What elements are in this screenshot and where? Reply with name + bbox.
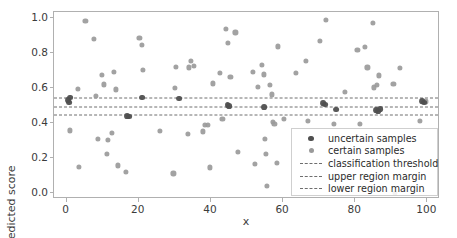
y-tick-label: 0.4 — [22, 116, 48, 128]
data-point — [171, 171, 176, 176]
data-point — [139, 43, 144, 48]
legend-entry[interactable]: uncertain samples — [296, 132, 432, 145]
data-point — [174, 64, 179, 69]
x-axis-label: x — [243, 215, 250, 228]
legend-entry[interactable]: lower region margin — [296, 182, 432, 195]
dash-icon — [300, 163, 322, 164]
data-point — [115, 163, 120, 168]
legend-dashed-line-icon — [296, 188, 326, 189]
data-point — [157, 128, 162, 133]
legend-dashed-line-icon — [296, 176, 326, 177]
x-tick-mark — [138, 198, 139, 202]
y-tick-label: 0.2 — [22, 151, 48, 163]
data-point — [378, 106, 384, 112]
data-point — [191, 63, 196, 68]
hline-upper-region-margin — [54, 97, 438, 98]
data-point — [322, 102, 328, 108]
legend-entry[interactable]: certain samples — [296, 145, 432, 158]
data-point — [112, 70, 117, 75]
data-point — [139, 95, 145, 101]
data-point — [323, 17, 328, 22]
data-point — [391, 82, 396, 87]
data-point — [317, 38, 322, 43]
data-point — [358, 121, 363, 126]
data-point — [188, 58, 193, 63]
x-tick-mark — [210, 198, 211, 202]
data-point — [67, 95, 73, 101]
data-point — [226, 40, 231, 45]
data-point — [333, 107, 339, 113]
legend-entry[interactable]: upper region margin — [296, 170, 432, 183]
data-point — [274, 160, 279, 165]
data-point — [305, 119, 310, 124]
data-point — [355, 47, 360, 52]
data-point — [99, 72, 104, 77]
data-point — [185, 132, 190, 137]
x-tick-label: 80 — [348, 203, 361, 215]
chart-legend[interactable]: uncertain samplescertain samplesclassifi… — [291, 128, 438, 196]
data-point — [102, 82, 107, 87]
data-point — [397, 66, 402, 71]
data-point — [141, 68, 146, 73]
legend-marker-icon — [296, 148, 326, 153]
data-point — [304, 58, 309, 63]
y-tick-label: 0.6 — [22, 81, 48, 93]
x-tick-mark — [426, 198, 427, 202]
data-point — [260, 62, 265, 67]
data-point — [109, 131, 114, 136]
x-tick-mark — [282, 198, 283, 202]
data-point — [262, 136, 267, 141]
data-point — [418, 118, 423, 123]
legend-label: lower region margin — [326, 183, 425, 194]
data-point — [362, 45, 367, 50]
data-point — [104, 151, 109, 156]
data-point — [208, 165, 213, 170]
data-point — [95, 136, 100, 141]
legend-label: classification threshold — [326, 158, 438, 169]
x-tick-label: 100 — [416, 203, 436, 215]
data-point — [76, 86, 81, 91]
data-point — [267, 82, 272, 87]
data-point — [223, 27, 228, 32]
data-point — [261, 104, 267, 110]
data-point — [123, 170, 128, 175]
data-point — [126, 114, 132, 120]
data-point — [91, 36, 96, 41]
data-point — [218, 70, 223, 75]
x-tick-mark — [354, 198, 355, 202]
legend-label: uncertain samples — [326, 133, 417, 144]
data-point — [220, 117, 225, 122]
circle-marker-icon — [308, 136, 313, 141]
dash-icon — [300, 176, 322, 177]
data-point — [331, 121, 336, 126]
data-point — [265, 183, 270, 188]
data-point — [210, 81, 215, 86]
data-point — [275, 44, 280, 49]
data-point — [228, 74, 233, 79]
data-point — [83, 18, 88, 23]
data-point — [250, 69, 255, 74]
data-point — [226, 103, 232, 109]
data-point — [172, 86, 177, 91]
dash-icon — [300, 188, 322, 189]
data-point — [370, 20, 375, 25]
data-point — [137, 35, 142, 40]
data-point — [374, 82, 379, 87]
data-point — [113, 87, 118, 92]
data-point — [365, 65, 370, 70]
data-point — [281, 116, 286, 121]
legend-entry[interactable]: classification threshold — [296, 157, 432, 170]
data-point — [252, 161, 257, 166]
data-point — [233, 30, 238, 35]
x-tick-mark — [66, 198, 67, 202]
data-point — [76, 164, 81, 169]
data-point — [200, 129, 205, 134]
data-point — [255, 84, 260, 89]
x-tick-label: 0 — [62, 203, 69, 215]
data-point — [422, 100, 428, 106]
y-tick-label: 0.0 — [22, 186, 48, 198]
data-point — [205, 123, 210, 128]
data-point — [67, 128, 72, 133]
circle-marker-icon — [309, 148, 314, 153]
data-point — [263, 152, 268, 157]
